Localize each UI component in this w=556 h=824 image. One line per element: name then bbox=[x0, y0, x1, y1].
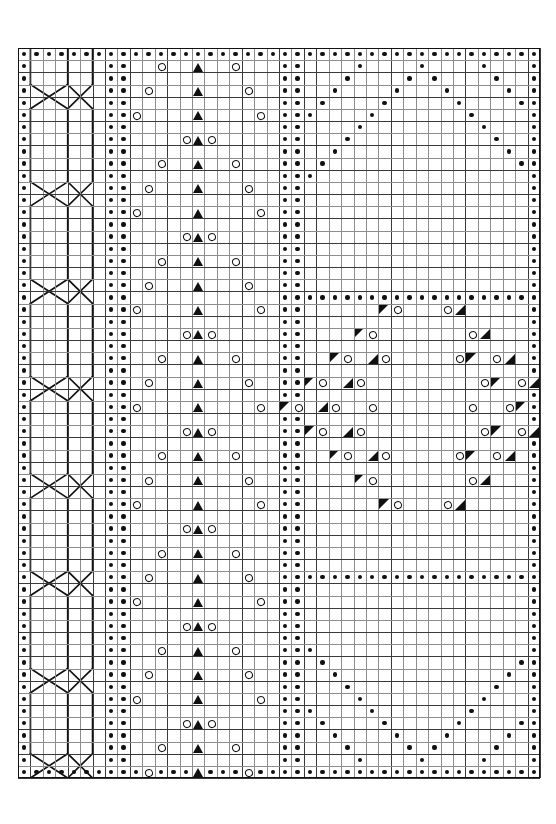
purl-stitch-cell[interactable] bbox=[18, 170, 30, 182]
purl-stitch-cell[interactable] bbox=[291, 85, 303, 97]
purl-stitch-cell[interactable] bbox=[291, 596, 303, 608]
purl-stitch-cell[interactable] bbox=[528, 170, 540, 182]
purl-stitch-cell[interactable] bbox=[528, 304, 540, 316]
purl-stitch-cell[interactable] bbox=[366, 109, 378, 121]
double-decrease-cell[interactable] bbox=[192, 231, 204, 243]
purl-stitch-cell[interactable] bbox=[279, 656, 291, 668]
purl-stitch-cell[interactable] bbox=[30, 48, 42, 60]
purl-stitch-cell[interactable] bbox=[105, 60, 117, 72]
purl-stitch-cell[interactable] bbox=[18, 133, 30, 145]
purl-stitch-cell[interactable] bbox=[279, 255, 291, 267]
purl-stitch-cell[interactable] bbox=[528, 121, 540, 133]
purl-stitch-cell[interactable] bbox=[18, 218, 30, 230]
purl-stitch-cell[interactable] bbox=[291, 693, 303, 705]
purl-stitch-cell[interactable] bbox=[279, 109, 291, 121]
purl-stitch-cell[interactable] bbox=[478, 766, 490, 778]
double-decrease-cell[interactable] bbox=[192, 523, 204, 535]
purl-stitch-cell[interactable] bbox=[528, 97, 540, 109]
purl-stitch-cell[interactable] bbox=[117, 462, 129, 474]
ssk-cell[interactable] bbox=[341, 377, 353, 389]
purl-stitch-cell[interactable] bbox=[117, 571, 129, 583]
yarn-over-cell[interactable] bbox=[142, 669, 154, 681]
purl-stitch-cell[interactable] bbox=[105, 255, 117, 267]
purl-stitch-cell[interactable] bbox=[105, 328, 117, 340]
yarn-over-cell[interactable] bbox=[441, 498, 453, 510]
purl-stitch-cell[interactable] bbox=[528, 742, 540, 754]
purl-stitch-cell[interactable] bbox=[490, 681, 502, 693]
purl-stitch-cell[interactable] bbox=[105, 364, 117, 376]
purl-stitch-cell[interactable] bbox=[279, 145, 291, 157]
purl-stitch-cell[interactable] bbox=[279, 571, 291, 583]
double-decrease-cell[interactable] bbox=[192, 596, 204, 608]
k2tog-cell[interactable] bbox=[304, 377, 316, 389]
k2tog-cell[interactable] bbox=[378, 498, 390, 510]
purl-stitch-cell[interactable] bbox=[18, 596, 30, 608]
purl-stitch-cell[interactable] bbox=[117, 401, 129, 413]
purl-stitch-cell[interactable] bbox=[416, 48, 428, 60]
purl-stitch-cell[interactable] bbox=[316, 97, 328, 109]
purl-stitch-cell[interactable] bbox=[528, 364, 540, 376]
yarn-over-cell[interactable] bbox=[142, 766, 154, 778]
purl-stitch-cell[interactable] bbox=[117, 316, 129, 328]
k2tog-cell[interactable] bbox=[304, 425, 316, 437]
purl-stitch-cell[interactable] bbox=[291, 72, 303, 84]
purl-stitch-cell[interactable] bbox=[528, 596, 540, 608]
purl-stitch-cell[interactable] bbox=[341, 681, 353, 693]
purl-stitch-cell[interactable] bbox=[316, 48, 328, 60]
purl-stitch-cell[interactable] bbox=[117, 60, 129, 72]
purl-stitch-cell[interactable] bbox=[18, 328, 30, 340]
purl-stitch-cell[interactable] bbox=[515, 48, 527, 60]
purl-stitch-cell[interactable] bbox=[18, 620, 30, 632]
yarn-over-cell[interactable] bbox=[354, 425, 366, 437]
k2tog-cell[interactable] bbox=[515, 401, 527, 413]
double-decrease-cell[interactable] bbox=[192, 109, 204, 121]
purl-stitch-cell[interactable] bbox=[441, 571, 453, 583]
purl-stitch-cell[interactable] bbox=[105, 243, 117, 255]
purl-stitch-cell[interactable] bbox=[378, 97, 390, 109]
purl-stitch-cell[interactable] bbox=[105, 437, 117, 449]
double-decrease-cell[interactable] bbox=[192, 717, 204, 729]
purl-stitch-cell[interactable] bbox=[528, 644, 540, 656]
purl-stitch-cell[interactable] bbox=[105, 596, 117, 608]
purl-stitch-cell[interactable] bbox=[354, 693, 366, 705]
purl-stitch-cell[interactable] bbox=[117, 535, 129, 547]
purl-stitch-cell[interactable] bbox=[105, 194, 117, 206]
purl-stitch-cell[interactable] bbox=[528, 109, 540, 121]
purl-stitch-cell[interactable] bbox=[291, 48, 303, 60]
yarn-over-cell[interactable] bbox=[142, 279, 154, 291]
purl-stitch-cell[interactable] bbox=[279, 72, 291, 84]
purl-stitch-cell[interactable] bbox=[279, 669, 291, 681]
purl-stitch-cell[interactable] bbox=[528, 158, 540, 170]
ssk-cell[interactable] bbox=[478, 474, 490, 486]
purl-stitch-cell[interactable] bbox=[279, 340, 291, 352]
double-decrease-cell[interactable] bbox=[192, 644, 204, 656]
purl-stitch-cell[interactable] bbox=[291, 267, 303, 279]
yarn-over-cell[interactable] bbox=[490, 352, 502, 364]
purl-stitch-cell[interactable] bbox=[105, 766, 117, 778]
purl-stitch-cell[interactable] bbox=[18, 559, 30, 571]
purl-stitch-cell[interactable] bbox=[80, 766, 92, 778]
purl-stitch-cell[interactable] bbox=[403, 48, 415, 60]
purl-stitch-cell[interactable] bbox=[18, 729, 30, 741]
purl-stitch-cell[interactable] bbox=[291, 145, 303, 157]
yarn-over-cell[interactable] bbox=[130, 109, 142, 121]
yarn-over-cell[interactable] bbox=[229, 742, 241, 754]
purl-stitch-cell[interactable] bbox=[528, 669, 540, 681]
purl-stitch-cell[interactable] bbox=[503, 291, 515, 303]
double-decrease-cell[interactable] bbox=[192, 304, 204, 316]
yarn-over-cell[interactable] bbox=[142, 85, 154, 97]
purl-stitch-cell[interactable] bbox=[18, 486, 30, 498]
purl-stitch-cell[interactable] bbox=[117, 681, 129, 693]
double-decrease-cell[interactable] bbox=[192, 766, 204, 778]
purl-stitch-cell[interactable] bbox=[341, 742, 353, 754]
purl-stitch-cell[interactable] bbox=[55, 48, 67, 60]
purl-stitch-cell[interactable] bbox=[18, 231, 30, 243]
purl-stitch-cell[interactable] bbox=[279, 644, 291, 656]
purl-stitch-cell[interactable] bbox=[279, 291, 291, 303]
purl-stitch-cell[interactable] bbox=[490, 72, 502, 84]
yarn-over-cell[interactable] bbox=[180, 328, 192, 340]
purl-stitch-cell[interactable] bbox=[18, 255, 30, 267]
yarn-over-cell[interactable] bbox=[242, 182, 254, 194]
purl-stitch-cell[interactable] bbox=[528, 571, 540, 583]
purl-stitch-cell[interactable] bbox=[291, 328, 303, 340]
